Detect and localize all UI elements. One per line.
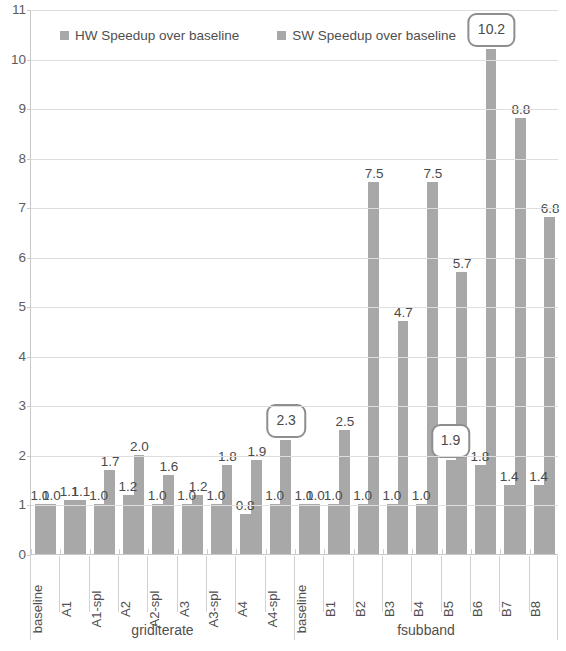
bar-hw <box>240 514 251 554</box>
x-axis-tick-mark <box>60 549 61 554</box>
data-label-sw: 1.6 <box>159 459 178 473</box>
gridline <box>31 406 558 407</box>
data-label-hw: 1.0 <box>412 489 431 503</box>
bar-group <box>236 10 265 554</box>
data-label-hw: 1.4 <box>529 469 548 483</box>
group-label-fsubband: fsubband <box>294 612 558 640</box>
data-label-sw: 7.5 <box>423 167 442 181</box>
bar-hw <box>504 485 515 554</box>
x-axis-tick-mark <box>119 549 120 554</box>
y-axis-tick-mark <box>27 258 31 259</box>
data-label-sw: 1.2 <box>189 479 208 493</box>
group-axis: griditeratefsubband <box>30 612 558 648</box>
gridline <box>31 456 558 457</box>
bar-group <box>383 10 412 554</box>
bar-sw <box>544 217 555 554</box>
gridline <box>31 307 558 308</box>
x-axis-tick-mark <box>295 549 296 554</box>
bar-group <box>90 10 119 554</box>
data-label-hw: 1.2 <box>118 479 137 493</box>
speedup-bar-chart: 1.01.01.11.11.01.71.22.01.01.61.01.21.01… <box>0 0 566 651</box>
x-axis-tick-mark <box>500 549 501 554</box>
x-axis-tick-mark <box>442 549 443 554</box>
legend-item-hw: HW Speedup over baseline <box>60 28 239 43</box>
bar-hw <box>123 495 134 554</box>
bar-group <box>31 10 60 554</box>
chart-legend: HW Speedup over baseline SW Speedup over… <box>60 28 456 43</box>
bar-group <box>60 10 89 554</box>
category-tick-a1: A1 <box>59 556 88 612</box>
category-tick-b4: B4 <box>411 556 440 612</box>
category-tick-a2-spl: A2-spl <box>147 556 176 612</box>
bar-hw <box>387 504 398 554</box>
bar-sw <box>46 504 57 554</box>
category-tick-b1: B1 <box>323 556 352 612</box>
bar-hw <box>64 500 75 555</box>
data-label-sw: 1.1 <box>71 484 90 498</box>
bar-hw <box>35 504 46 554</box>
bars-layer: 1.01.01.11.11.01.71.22.01.01.61.01.21.01… <box>31 10 558 554</box>
x-axis-tick-mark <box>266 549 267 554</box>
gridline <box>31 208 558 209</box>
x-axis-tick-mark <box>178 549 179 554</box>
y-axis-tick-mark <box>27 505 31 506</box>
gridline <box>31 505 558 506</box>
bar-sw <box>456 272 467 554</box>
gridline <box>31 159 558 160</box>
data-label-hw: 1.0 <box>324 489 343 503</box>
x-axis-tick-mark <box>207 549 208 554</box>
bar-group <box>207 10 236 554</box>
category-tick-a4: A4 <box>235 556 264 612</box>
bar-sw <box>310 504 321 554</box>
data-label-sw: 2.5 <box>335 415 354 429</box>
x-axis-tick-mark <box>530 549 531 554</box>
y-axis-tick-mark <box>27 357 31 358</box>
bar-hw <box>211 504 222 554</box>
category-tick-a2: A2 <box>118 556 147 612</box>
data-label-hw: 1.0 <box>265 489 284 503</box>
data-label-sw: 2.0 <box>130 439 149 453</box>
category-tick-a3-spl: A3-spl <box>206 556 235 612</box>
legend-label-hw: HW Speedup over baseline <box>75 28 239 43</box>
bar-sw <box>222 465 233 554</box>
category-tick-a4-spl: A4-spl <box>265 556 294 612</box>
bar-group <box>471 10 500 554</box>
category-tick-b8: B8 <box>529 556 558 612</box>
bar-hw <box>534 485 545 554</box>
legend-item-sw: SW Speedup over baseline <box>277 28 456 43</box>
bar-sw <box>134 455 145 554</box>
bar-group <box>442 10 471 554</box>
category-tick-b2: B2 <box>353 556 382 612</box>
y-axis-tick-mark <box>27 60 31 61</box>
bar-sw <box>486 49 497 554</box>
data-label-hw: 1.0 <box>148 489 167 503</box>
bar-hw <box>152 504 163 554</box>
bar-hw <box>182 504 193 554</box>
category-tick-baseline: baseline <box>294 556 323 612</box>
data-label-sw: 7.5 <box>365 167 384 181</box>
bar-sw <box>75 500 86 555</box>
category-tick-baseline: baseline <box>30 556 59 612</box>
legend-swatch-hw-icon <box>60 31 69 40</box>
x-axis-tick-mark <box>236 549 237 554</box>
data-label-hw: 1.0 <box>89 489 108 503</box>
bar-hw <box>94 504 105 554</box>
bar-hw <box>328 504 339 554</box>
bar-sw <box>104 470 115 554</box>
bar-hw <box>416 504 427 554</box>
plot-area: 1.01.01.11.11.01.71.22.01.01.61.01.21.01… <box>30 10 558 555</box>
x-axis-tick-mark <box>383 549 384 554</box>
data-label-hw: 1.9 <box>431 424 470 458</box>
legend-label-sw: SW Speedup over baseline <box>292 28 456 43</box>
bar-group <box>178 10 207 554</box>
gridline <box>31 357 558 358</box>
y-axis-tick-mark <box>27 456 31 457</box>
category-tick-b5: B5 <box>441 556 470 612</box>
y-axis-tick-mark <box>27 159 31 160</box>
y-axis-tick-mark <box>27 109 31 110</box>
legend-swatch-sw-icon <box>277 31 286 40</box>
data-label-hw: 1.0 <box>353 489 372 503</box>
gridline <box>31 60 558 61</box>
bar-group <box>412 10 441 554</box>
gridline <box>31 258 558 259</box>
